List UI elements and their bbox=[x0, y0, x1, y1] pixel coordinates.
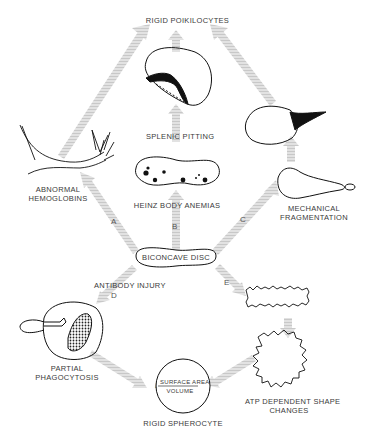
pitted-cell-drawing bbox=[145, 48, 211, 106]
antibody-injury-label: ANTIBODY INJURY bbox=[94, 281, 164, 290]
ratio-numerator: SURFACE AREA bbox=[160, 378, 200, 387]
rigid-poikilocytes-label: RIGID POIKILOCYTES bbox=[140, 16, 235, 25]
decrease-arrow-icon: ↓ bbox=[152, 381, 160, 390]
splenic-pitting-label: SPLENIC PITTING bbox=[146, 132, 208, 141]
tadpole-cell-drawing bbox=[245, 106, 326, 144]
abnormal-label-2: HEMOGLOBINS bbox=[28, 194, 88, 203]
pathway-a-label: A bbox=[111, 217, 116, 226]
phagocytosis-drawing bbox=[20, 302, 103, 359]
ratio-denominator: VOLUME bbox=[160, 387, 200, 396]
echinocyte-drawing bbox=[253, 330, 307, 387]
rigid-spherocyte-label: RIGID SPHEROCYTE bbox=[140, 419, 226, 428]
atp-label-1: ATP DEPENDENT SHAPE bbox=[245, 397, 333, 406]
pathway-b-label: B bbox=[172, 222, 177, 231]
heinz-label: HEINZ BODY ANEMIAS bbox=[133, 201, 221, 210]
pathway-c-label: C bbox=[240, 215, 246, 224]
heinz-body-cell-drawing bbox=[136, 157, 220, 185]
pathway-diagram: RIGID POIKILOCYTES SPLENIC PITTING ABNOR… bbox=[0, 0, 368, 434]
mechanical-label-1: MECHANICAL bbox=[280, 204, 348, 213]
biconcave-disc-label: BICONCAVE DISC bbox=[140, 253, 212, 262]
pathway-e-label: E bbox=[224, 278, 229, 287]
partial-label-1: PARTIAL bbox=[40, 364, 94, 373]
abnormal-label-1: ABNORMAL bbox=[28, 185, 88, 194]
crenated-cell-drawing bbox=[246, 286, 309, 307]
mechanical-label-2: FRAGMENTATION bbox=[280, 213, 348, 222]
atp-label-2: CHANGES bbox=[245, 406, 333, 415]
pathway-d-label: D bbox=[111, 291, 117, 300]
partial-label-2: PHAGOCYTOSIS bbox=[30, 373, 104, 382]
fragmented-cell-drawing bbox=[278, 168, 355, 198]
